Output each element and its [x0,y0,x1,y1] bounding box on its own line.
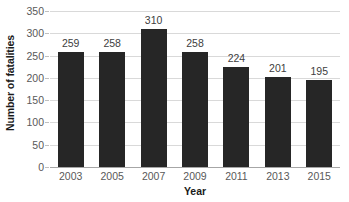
x-axis-tick-label: 2013 [257,170,299,183]
bar-chart: Number of fatalities 0501001502002503003… [0,0,349,202]
x-axis-line [50,167,340,168]
x-axis-tick-labels: 2003200520072009201120132015 [50,170,340,184]
y-axis-tick-labels: 050100150200250300350 [18,0,44,202]
x-axis-title: Year [50,185,340,198]
y-axis-tick-label: 250 [18,51,44,61]
bar[interactable] [223,67,249,167]
x-axis-tick-label: 2009 [174,170,216,183]
bar-value-label: 224 [216,53,256,64]
bar[interactable] [99,52,125,167]
y-axis-tick-mark [45,56,49,57]
y-axis-tick-label: 350 [18,6,44,16]
y-axis-title: Number of fatalities [2,0,18,168]
x-axis-tick-label: 2007 [133,170,175,183]
bar-value-label: 258 [175,38,215,49]
y-axis-tick-mark [45,122,49,123]
bar-value-label: 258 [92,38,132,49]
y-axis-tick-label: 200 [18,73,44,83]
y-axis-tick-label: 100 [18,117,44,127]
x-axis-tick-label: 2011 [215,170,257,183]
bar-value-label: 195 [299,66,339,77]
x-axis-tick-label: 2015 [298,170,340,183]
bars-layer: 259258310258224201195 [50,11,340,167]
y-axis-tick-label: 0 [18,162,44,172]
y-axis-tick-mark [45,33,49,34]
bar-value-label: 201 [258,63,298,74]
bar[interactable] [306,80,332,167]
x-axis-tick-label: 2005 [91,170,133,183]
y-axis-tick-label: 150 [18,95,44,105]
bar-value-label: 259 [51,38,91,49]
y-axis-tick-mark [45,145,49,146]
x-axis-tick-label: 2003 [50,170,92,183]
bar[interactable] [58,52,84,167]
y-axis-tick-mark [45,100,49,101]
y-axis-tick-mark [45,167,49,168]
y-axis-tick-label: 300 [18,28,44,38]
y-axis-tick-mark [45,11,49,12]
y-axis-tick-label: 50 [18,140,44,150]
bar[interactable] [265,77,291,167]
bar[interactable] [182,52,208,167]
y-axis-tick-mark [45,78,49,79]
bar-value-label: 310 [134,15,174,26]
bar[interactable] [141,29,167,167]
